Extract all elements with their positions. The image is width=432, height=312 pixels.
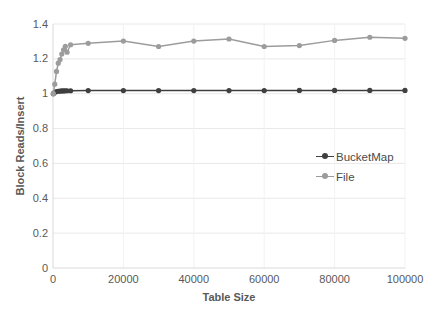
data-point (191, 88, 196, 93)
data-point (121, 88, 126, 93)
chart-legend: BucketMapFile (316, 150, 394, 183)
data-point (63, 44, 68, 49)
data-point (86, 88, 91, 93)
data-point (332, 38, 337, 43)
data-point (54, 69, 59, 74)
series-bucketmap (51, 88, 408, 97)
data-point (57, 57, 62, 62)
x-axis-tick-labels: 020000400006000080000100000 (0, 274, 432, 290)
data-point (367, 88, 372, 93)
gridlines (53, 24, 405, 233)
gridlines-vertical (123, 24, 405, 268)
data-point (297, 43, 302, 48)
data-point (52, 82, 57, 87)
y-tick-label: 0.6 (6, 158, 48, 169)
data-point (191, 38, 196, 43)
data-point (68, 42, 73, 47)
data-point (332, 88, 337, 93)
data-point (402, 36, 407, 41)
y-tick-label: 0.8 (6, 123, 48, 134)
plot-area (53, 24, 405, 268)
data-point (226, 88, 231, 93)
y-tick-label: 1.4 (6, 19, 48, 30)
data-point (68, 88, 73, 93)
y-tick-label: 1.2 (6, 53, 48, 64)
legend-label: File (336, 171, 355, 183)
data-point (226, 36, 231, 41)
y-tick-label: 0 (6, 263, 48, 274)
x-tick-label: 0 (50, 274, 56, 285)
data-point (156, 88, 161, 93)
x-tick-label: 20000 (108, 274, 139, 285)
plot-svg (53, 24, 405, 268)
y-axis-title: Block Reads/Insert (14, 56, 26, 236)
x-axis-title: Table Size (53, 291, 405, 303)
data-point (402, 88, 407, 93)
chart-container: 00.20.40.60.811.21.4 0200004000060000800… (0, 0, 432, 312)
legend-marker-icon (316, 172, 334, 182)
x-tick-label: 40000 (179, 274, 210, 285)
x-tick-label: 80000 (319, 274, 350, 285)
legend-label: BucketMap (336, 151, 394, 163)
y-tick-label: 1 (6, 88, 48, 99)
data-point (297, 88, 302, 93)
series-line (53, 37, 405, 93)
data-point (51, 91, 56, 96)
data-point (262, 44, 267, 49)
legend-item-bucketmap[interactable]: BucketMap (316, 150, 394, 163)
series-file (51, 35, 408, 97)
legend-item-file[interactable]: File (316, 170, 394, 183)
y-tick-label: 0.2 (6, 228, 48, 239)
data-point (367, 35, 372, 40)
data-point (156, 44, 161, 49)
data-point (86, 41, 91, 46)
data-point (262, 88, 267, 93)
legend-marker-icon (316, 152, 334, 162)
y-tick-label: 0.4 (6, 193, 48, 204)
x-tick-label: 100000 (387, 274, 424, 285)
data-point (121, 38, 126, 43)
data-point (64, 50, 69, 55)
x-tick-label: 60000 (249, 274, 280, 285)
